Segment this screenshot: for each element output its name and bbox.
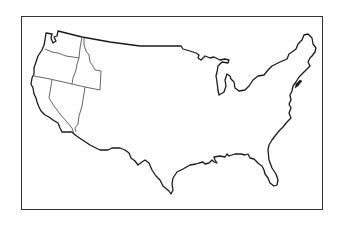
border-nv-ut-az xyxy=(75,87,85,132)
border-wa-id xyxy=(79,37,82,58)
us-outline-map xyxy=(0,0,342,233)
border-or-id xyxy=(72,58,79,84)
border-id-nv xyxy=(72,84,100,90)
us-national-outline xyxy=(31,31,316,194)
border-id-mt xyxy=(84,38,101,90)
map-canvas: United States outline map xyxy=(0,0,342,233)
border-wa-or xyxy=(45,49,79,58)
border-or-ca-nv xyxy=(34,76,72,84)
western-state-borders xyxy=(34,37,101,134)
border-ca-nv xyxy=(49,80,74,134)
